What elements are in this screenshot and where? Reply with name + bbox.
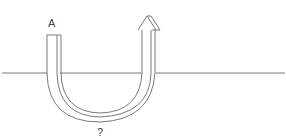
label-bottom: ?: [97, 126, 103, 138]
arrow-head-icon: [138, 16, 156, 30]
diagram-canvas: [0, 0, 286, 140]
u-tube: [47, 16, 160, 122]
label-start: A: [48, 17, 55, 29]
